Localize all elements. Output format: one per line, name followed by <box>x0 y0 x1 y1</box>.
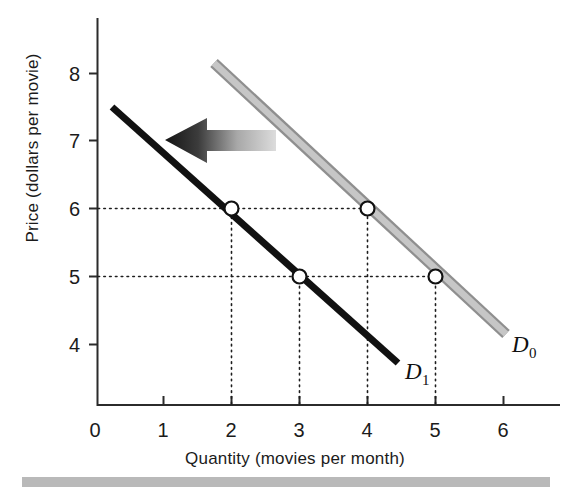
guide-lines <box>98 207 437 404</box>
curve-label-d1: D 1 <box>404 359 430 388</box>
arrow-shape <box>165 118 276 163</box>
x-tick-label-1: 1 <box>157 419 168 441</box>
leftward-shift-arrow <box>165 118 276 163</box>
marker-d0-q5-p5[interactable] <box>429 270 443 284</box>
chart-canvas: 8 7 6 5 4 0 1 2 3 4 5 6 <box>0 0 572 500</box>
x-tick-label-3: 3 <box>293 419 304 441</box>
x-axis-ticks <box>164 396 504 405</box>
y-tick-label-5: 5 <box>69 266 80 288</box>
y-axis-tick-labels: 8 7 6 5 4 <box>69 63 80 356</box>
x-tick-label-0: 0 <box>89 419 100 441</box>
y-tick-label-7: 7 <box>69 130 80 152</box>
curve-label-d1-subscript: 1 <box>422 372 430 388</box>
y-tick-label-4: 4 <box>69 334 80 356</box>
y-axis-title: Price (dollars per movie) <box>23 53 42 242</box>
y-tick-label-8: 8 <box>69 63 80 85</box>
curve-label-d1-letter: D <box>404 359 422 384</box>
x-tick-label-4: 4 <box>361 419 372 441</box>
marker-d0-q4-p6[interactable] <box>361 202 375 216</box>
footer-divider-bar <box>22 477 550 487</box>
x-axis-title: Quantity (movies per month) <box>185 449 405 468</box>
curve-label-d0-subscript: 0 <box>529 345 537 361</box>
x-axis-tick-labels: 0 1 2 3 4 5 6 <box>89 419 508 441</box>
demand-curve-d0[interactable] <box>214 63 506 334</box>
y-tick-label-6: 6 <box>69 198 80 220</box>
marker-d1-q3-p5[interactable] <box>293 270 307 284</box>
curve-label-d0-letter: D <box>511 332 529 357</box>
curve-label-d0: D 0 <box>511 332 537 361</box>
x-tick-label-6: 6 <box>497 419 508 441</box>
marker-d1-q2-p6[interactable] <box>225 202 239 216</box>
x-tick-label-5: 5 <box>429 419 440 441</box>
demand-curve-figure: 8 7 6 5 4 0 1 2 3 4 5 6 <box>0 0 572 500</box>
d0-curve-inner <box>214 63 506 334</box>
axes-group <box>98 18 561 406</box>
y-axis-ticks <box>89 74 98 345</box>
x-tick-label-2: 2 <box>225 419 236 441</box>
